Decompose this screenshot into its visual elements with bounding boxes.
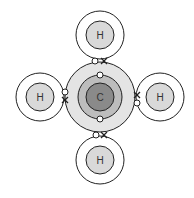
carbon-label: C bbox=[96, 92, 103, 103]
hydrogen-label: H bbox=[156, 92, 163, 103]
hydrogen-bottom: H bbox=[76, 136, 124, 184]
hydrogen-label: H bbox=[96, 30, 103, 41]
hydrogen-right: H bbox=[136, 73, 184, 121]
hydrogen-label: H bbox=[96, 155, 103, 166]
electron-inner-top bbox=[97, 72, 103, 78]
methane-diagram: H H H H C bbox=[0, 0, 194, 198]
hydrogen-label: H bbox=[36, 92, 43, 103]
hydrogen-top: H bbox=[76, 11, 124, 59]
hydrogen-left: H bbox=[16, 73, 64, 121]
electron-inner-bottom bbox=[97, 116, 103, 122]
